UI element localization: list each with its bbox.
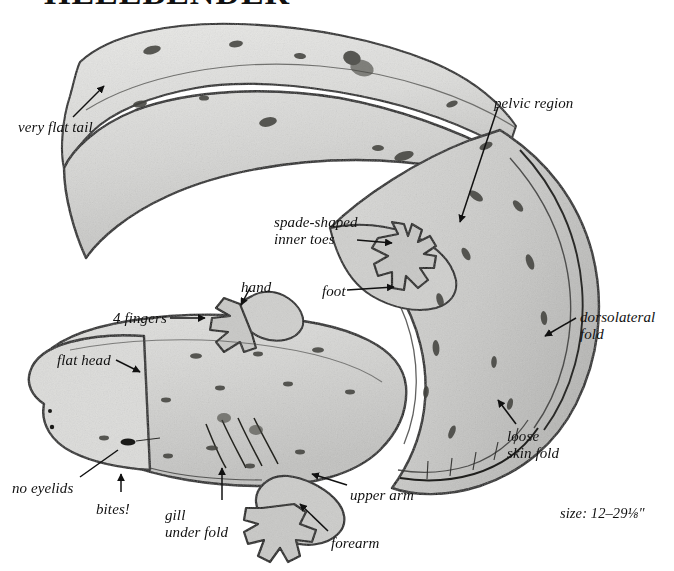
field-guide-plate: HELLBENDER (0, 0, 674, 571)
label-line: forearm (331, 535, 379, 552)
label-line: spade-shaped (274, 214, 358, 231)
label-line: flat head (57, 352, 111, 369)
label-gill-under-fold: gillunder fold (165, 507, 228, 541)
label-loose-skin-fold: looseskin fold (507, 428, 559, 462)
label-line: hand (241, 279, 271, 296)
label-forearm: forearm (331, 535, 379, 552)
label-line: bites! (96, 501, 130, 518)
label-spade-shaped: spade-shapedinner toes (274, 214, 358, 248)
eye (121, 438, 136, 445)
label-line: 4 fingers (113, 310, 167, 327)
front-hand (244, 504, 316, 562)
label-line: loose (507, 428, 559, 445)
label-line: dorsolateral (580, 309, 655, 326)
label-flat-head: flat head (57, 352, 111, 369)
label-line: foot (322, 283, 346, 300)
label-pelvic-region: pelvic region (494, 95, 573, 112)
label-foot: foot (322, 283, 346, 300)
size-note: size: 12–29⅛″ (560, 505, 645, 522)
nostril-2 (48, 409, 52, 413)
label-upper-arm: upper arm (350, 487, 414, 504)
label-bites: bites! (96, 501, 130, 518)
label-hand: hand (241, 279, 271, 296)
label-line: upper arm (350, 487, 414, 504)
label-line: fold (580, 326, 655, 343)
label-four-fingers: 4 fingers (113, 310, 167, 327)
label-line: very flat tail (18, 119, 93, 136)
label-line: skin fold (507, 445, 559, 462)
label-line: under fold (165, 524, 228, 541)
label-very-flat-tail: very flat tail (18, 119, 93, 136)
nostril (50, 425, 54, 429)
label-no-eyelids: no eyelids (12, 480, 73, 497)
label-dorsolateral-fold: dorsolateralfold (580, 309, 655, 343)
label-line: inner toes (274, 231, 358, 248)
label-line: pelvic region (494, 95, 573, 112)
label-line: gill (165, 507, 228, 524)
label-line: no eyelids (12, 480, 73, 497)
